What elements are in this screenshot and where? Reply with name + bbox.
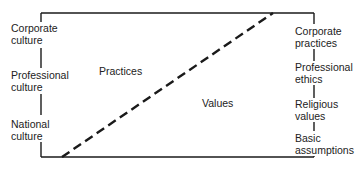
label-line: culture: [11, 130, 50, 142]
label-line: Corporate: [11, 22, 58, 34]
label-line: Professional: [11, 69, 69, 81]
region-label-practices: Practices: [99, 65, 142, 77]
right-label-religious-values: Religious values: [295, 98, 338, 122]
label-line: practices: [295, 37, 342, 49]
left-label-professional-culture: Professional culture: [11, 69, 69, 93]
region-label-values: Values: [202, 97, 233, 109]
label-line: values: [295, 110, 338, 122]
left-label-corporate-culture: Corporate culture: [11, 22, 58, 46]
label-line: ethics: [295, 73, 353, 85]
practices-values-divider: [62, 13, 273, 157]
right-label-basic-assumptions: Basic assumptions: [295, 132, 354, 156]
label-line: National: [11, 118, 50, 130]
right-label-professional-ethics: Professional ethics: [295, 61, 353, 85]
label-line: culture: [11, 34, 58, 46]
label-line: Professional: [295, 61, 353, 73]
label-line: assumptions: [295, 144, 354, 156]
left-label-national-culture: National culture: [11, 118, 50, 142]
label-line: Religious: [295, 98, 338, 110]
label-line: Corporate: [295, 25, 342, 37]
right-label-corporate-practices: Corporate practices: [295, 25, 342, 49]
label-line: culture: [11, 81, 69, 93]
label-line: Basic: [295, 132, 354, 144]
